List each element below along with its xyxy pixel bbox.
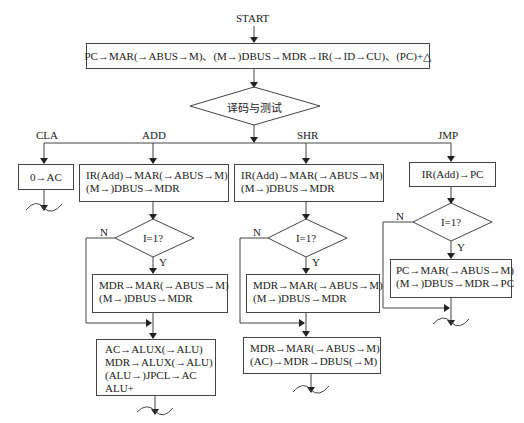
add-exec-line2: MDR→ALUX(→ALU) <box>105 356 207 369</box>
add-indirect-line2: (M→)DBUS→MDR <box>99 292 221 305</box>
shr-execute-box: MDR→MAR(→ABUS→M) (AC)→MDR→DBUS(→M) <box>243 337 381 374</box>
jmp-indirect-box: PC→MAR(→ABUS→M) (M→)DBUS→MDR→PC <box>390 259 512 298</box>
fetch-cycle-box: PC→MAR(→ABUS→M)、(M→)DBUS→MDR→IR(→ID→CU)、… <box>86 43 430 69</box>
branch-label-cla: CLA <box>36 129 58 141</box>
add-exec-line4: ALU+ <box>105 382 207 395</box>
add-no-label: N <box>100 226 108 238</box>
jmp-no-label: N <box>396 210 404 222</box>
add-execute-box: AC→ALUX(→ALU) MDR→ALUX(→ALU) (ALU→)JPCL→… <box>96 339 216 396</box>
branch-label-shr: SHR <box>297 129 318 141</box>
shr-exec-line2: (AC)→MDR→DBUS(→M) <box>250 355 374 368</box>
shr-operand-fetch-box: IR(Add)→MAR(→ABUS→M) (M→)DBUS→MDR <box>234 164 384 202</box>
shr-indirect-box: MDR→MAR(→ABUS→M) (M→)DBUS→MDR <box>246 274 380 313</box>
add-exec-line3: (ALU→)JPCL→AC <box>105 369 207 382</box>
shr-indirect-line1: MDR→MAR(→ABUS→M) <box>253 279 373 292</box>
fetch-cycle-text: PC→MAR(→ABUS→M)、(M→)DBUS→MDR→IR(→ID→CU)、… <box>84 50 431 63</box>
jmp-box-text: IR(Add)→PC <box>422 168 484 181</box>
add-decision-label: I=1? <box>133 232 173 244</box>
shr-no-label: N <box>253 226 261 238</box>
shr-box1-line1: IR(Add)→MAR(→ABUS→M) <box>241 169 377 182</box>
decode-diamond-label: 译码与测试 <box>214 99 294 115</box>
add-exec-line1: AC→ALUX(→ALU) <box>105 343 207 356</box>
start-label: START <box>236 12 269 24</box>
add-box1-line1: IR(Add)→MAR(→ABUS→M) <box>86 169 222 182</box>
jmp-indirect-line2: (M→)DBUS→MDR→PC <box>396 277 506 290</box>
jmp-decision-label: I=1? <box>431 216 471 228</box>
add-yes-label: Y <box>159 256 167 268</box>
add-indirect-line1: MDR→MAR(→ABUS→M) <box>99 279 221 292</box>
jmp-box: IR(Add)→PC <box>409 162 496 187</box>
shr-box1-line2: (M→)DBUS→MDR <box>241 182 377 195</box>
shr-indirect-line2: (M→)DBUS→MDR <box>253 292 373 305</box>
add-box1-line2: (M→)DBUS→MDR <box>86 182 222 195</box>
jmp-indirect-line1: PC→MAR(→ABUS→M) <box>396 264 506 277</box>
branch-label-add: ADD <box>142 129 166 141</box>
add-indirect-box: MDR→MAR(→ABUS→M) (M→)DBUS→MDR <box>92 274 228 313</box>
add-operand-fetch-box: IR(Add)→MAR(→ABUS→M) (M→)DBUS→MDR <box>79 164 229 202</box>
branch-label-jmp: JMP <box>438 129 458 141</box>
shr-exec-line1: MDR→MAR(→ABUS→M) <box>250 342 374 355</box>
cla-box: 0→AC <box>18 164 74 190</box>
shr-decision-label: I=1? <box>286 232 326 244</box>
shr-yes-label: Y <box>312 256 320 268</box>
cla-box-text: 0→AC <box>30 171 62 184</box>
jmp-yes-label: Y <box>457 241 465 253</box>
